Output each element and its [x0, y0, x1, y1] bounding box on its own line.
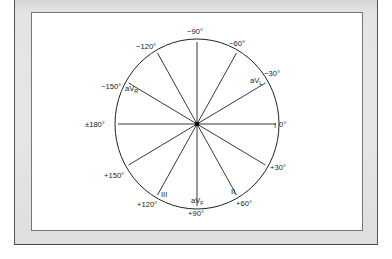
degree-label-neg120: −120° — [136, 42, 156, 51]
lead-aVR-label: aVR — [125, 84, 138, 94]
degree-label-neg150: −150° — [101, 82, 121, 91]
axis-line-neg120 — [158, 53, 198, 124]
degree-label-pos60: +60° — [236, 199, 252, 208]
axis-geometry — [115, 39, 279, 209]
axis-line-pos150 — [129, 124, 197, 165]
degree-label-pos120: +120° — [137, 200, 157, 209]
degree-label-pm180: ±180° — [85, 120, 105, 129]
axis-line-pos30 — [197, 124, 265, 165]
axis-line-pos60 — [197, 124, 237, 195]
degree-label-pos150: +150° — [104, 171, 124, 180]
lead-aVL-label: aVL — [250, 76, 262, 86]
lead-II-label: II — [231, 187, 235, 196]
axis-line-neg30 — [197, 83, 265, 124]
lead-labels: IIIIIIaVLaVRaVF — [125, 76, 276, 206]
hexaxial-diagram: −90°−60°−120°−30°−150°±180°0°+30°+150°+6… — [0, 0, 392, 259]
axis-line-neg150 — [129, 83, 197, 124]
degree-label-zero: 0° — [279, 120, 286, 129]
axis-line-pos120 — [158, 124, 198, 195]
degree-label-neg90: −90° — [187, 27, 203, 36]
lead-III-label: III — [161, 190, 167, 199]
degree-label-pos90: +90° — [188, 209, 204, 218]
axis-line-neg60 — [197, 53, 237, 124]
degree-label-neg60: −60° — [229, 39, 245, 48]
center-point — [195, 122, 199, 126]
lead-aVF-label: aVF — [191, 196, 204, 206]
degree-label-neg30: −30° — [264, 69, 280, 78]
degree-label-pos30: +30° — [270, 163, 286, 172]
lead-I-label: I — [274, 121, 276, 130]
